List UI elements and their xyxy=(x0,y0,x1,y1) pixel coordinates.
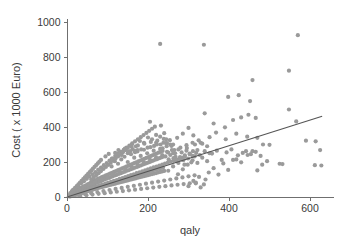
data-point xyxy=(191,133,195,137)
y-tick-label: 200 xyxy=(43,156,61,168)
data-point xyxy=(105,175,109,179)
data-point xyxy=(174,176,178,180)
x-tick-label: 0 xyxy=(64,202,70,214)
data-point xyxy=(148,158,152,162)
data-point xyxy=(157,185,161,189)
x-tick-label: 200 xyxy=(139,202,157,214)
data-point xyxy=(169,144,173,148)
data-point xyxy=(123,147,127,151)
data-point xyxy=(265,159,269,163)
data-point xyxy=(132,184,136,188)
data-point xyxy=(171,156,175,160)
data-point xyxy=(186,174,190,178)
data-point xyxy=(237,93,241,97)
data-point xyxy=(229,147,233,151)
data-point xyxy=(109,190,113,194)
data-point xyxy=(129,145,133,149)
data-point xyxy=(224,150,228,154)
data-point xyxy=(152,144,156,148)
data-point xyxy=(142,142,146,146)
data-point xyxy=(205,144,209,148)
data-point xyxy=(178,155,182,159)
data-point xyxy=(199,141,203,145)
data-point xyxy=(145,146,149,150)
data-point xyxy=(176,172,180,176)
data-point xyxy=(170,148,174,152)
data-point xyxy=(192,173,196,177)
data-point xyxy=(136,163,140,167)
data-point xyxy=(110,156,114,160)
data-point xyxy=(234,157,238,161)
data-point xyxy=(160,146,164,150)
data-point xyxy=(280,162,284,166)
data-point xyxy=(202,182,206,186)
data-point xyxy=(183,153,187,157)
data-point xyxy=(200,156,204,160)
data-point xyxy=(223,125,227,129)
data-point xyxy=(126,150,130,154)
data-point xyxy=(148,120,152,124)
data-point xyxy=(182,182,186,186)
data-point xyxy=(203,177,207,181)
data-point xyxy=(119,157,123,161)
data-point xyxy=(146,135,150,139)
data-point xyxy=(116,148,120,152)
data-point xyxy=(116,162,120,166)
data-point xyxy=(318,148,322,152)
scatter-plot-figure: 02004006008001000 0200400600 Cost ( x 10… xyxy=(0,0,345,244)
data-point xyxy=(145,186,149,190)
data-point xyxy=(173,151,177,155)
data-point xyxy=(81,185,85,189)
data-point xyxy=(304,139,308,143)
data-point xyxy=(175,136,179,140)
data-point xyxy=(287,107,291,111)
data-point xyxy=(93,180,97,184)
data-point xyxy=(287,69,291,73)
data-point xyxy=(236,153,240,157)
data-point xyxy=(138,183,142,187)
data-point xyxy=(246,113,250,117)
data-point xyxy=(245,135,249,139)
data-point xyxy=(115,190,119,194)
data-point xyxy=(212,121,216,125)
data-point xyxy=(162,131,166,135)
data-point xyxy=(149,140,153,144)
data-point xyxy=(216,173,220,177)
data-point xyxy=(154,133,158,137)
data-point xyxy=(118,170,122,174)
data-point xyxy=(132,156,136,160)
data-point xyxy=(249,152,253,156)
data-point xyxy=(294,119,298,123)
data-point xyxy=(212,166,216,170)
y-tick-label: 0 xyxy=(55,191,61,203)
data-point xyxy=(180,175,184,179)
y-tick-label: 400 xyxy=(43,121,61,133)
data-point xyxy=(163,154,167,158)
data-point xyxy=(175,183,179,187)
x-tick-label: 600 xyxy=(301,202,319,214)
x-axis-title: qaly xyxy=(180,224,201,236)
data-point xyxy=(180,150,184,154)
y-axis: 02004006008001000 xyxy=(37,16,67,203)
y-tick-label: 600 xyxy=(43,86,61,98)
data-point xyxy=(248,99,252,103)
data-point xyxy=(319,163,323,167)
y-tick-label: 800 xyxy=(43,51,61,63)
data-point xyxy=(167,157,171,161)
data-point xyxy=(207,170,211,174)
data-point xyxy=(199,185,203,189)
data-point xyxy=(96,192,100,196)
plot-canvas: 02004006008001000 0200400600 Cost ( x 10… xyxy=(0,0,345,244)
data-point xyxy=(194,181,198,185)
data-point xyxy=(254,116,258,120)
data-point xyxy=(186,126,190,130)
data-point xyxy=(197,175,201,179)
data-point xyxy=(99,177,103,181)
data-point xyxy=(188,181,192,185)
data-point xyxy=(136,143,140,147)
data-point xyxy=(113,151,117,155)
data-point xyxy=(139,147,143,151)
data-point xyxy=(171,164,175,168)
data-point xyxy=(124,168,128,172)
data-point xyxy=(220,158,224,162)
